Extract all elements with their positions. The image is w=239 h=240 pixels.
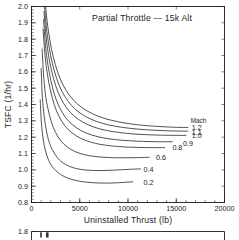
curve-label-mach-0.6: 0.6 xyxy=(156,153,166,162)
y-tick-label: 1.6 xyxy=(18,67,28,76)
figure-container: 0.80.91.01.11.21.31.41.51.61.71.81.92.00… xyxy=(0,0,239,240)
x-tick-label: 0 xyxy=(30,204,34,213)
y-tick-label: 1.2 xyxy=(18,133,28,142)
chart-title: Partial Throttle — 15k Alt xyxy=(92,13,193,23)
second-chart-curve-bundle-b xyxy=(46,232,49,237)
y-tick-label: 1.3 xyxy=(18,116,28,125)
y-tick-label: 1.0 xyxy=(18,165,28,174)
curve-mach-0.6 xyxy=(42,49,149,158)
x-tick-label: 5000 xyxy=(72,204,88,213)
curve-label-mach-0.2: 0.2 xyxy=(143,178,153,187)
curve-mach-0.2 xyxy=(40,100,133,183)
y-tick-label: 1.1 xyxy=(18,149,28,158)
x-tick-label: 20000 xyxy=(215,204,235,213)
curve-label-mach-1.2: 1.2 xyxy=(192,123,202,132)
second-chart-curve-bundle-a xyxy=(40,232,42,237)
y-tick-label: 1.9 xyxy=(18,18,28,27)
y-tick-label: 0.9 xyxy=(18,182,28,191)
x-tick-label: 15000 xyxy=(166,204,186,213)
plot-frame xyxy=(32,7,225,203)
y-tick-label: 1.8 xyxy=(18,35,28,44)
y-tick-label: 1.5 xyxy=(18,84,28,93)
x-tick-label: 10000 xyxy=(118,204,138,213)
y-tick-label: 1.7 xyxy=(18,51,28,60)
y-tick-label: 0.8 xyxy=(18,198,28,207)
x-axis-title: Uninstalled Thrust (lb) xyxy=(84,215,173,225)
curve-mach-1.1 xyxy=(45,7,188,132)
curve-label-mach-0.4: 0.4 xyxy=(143,165,153,174)
legend-title: Mach xyxy=(191,117,207,124)
curve-label-mach-0.8: 0.8 xyxy=(172,143,182,152)
y-tick-label: 2.0 xyxy=(18,2,28,11)
second-chart-y-tick-label: 1.8 xyxy=(18,227,28,236)
tsfc-partial-throttle-chart: 0.80.91.01.11.21.31.41.51.61.71.81.92.00… xyxy=(0,0,239,240)
y-axis-title: TSFC (1/hr) xyxy=(3,81,13,129)
y-tick-label: 1.4 xyxy=(18,100,28,109)
